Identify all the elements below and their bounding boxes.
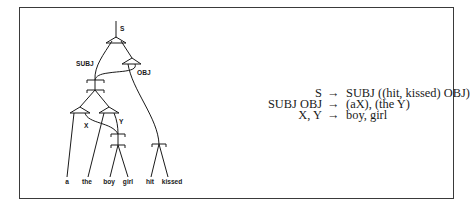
leaf-the: the <box>82 178 92 185</box>
leaf-line-hit <box>151 144 159 177</box>
rule-lhs: X, Y <box>222 109 322 121</box>
obj-to-verb-branch <box>128 64 159 144</box>
obj-branch <box>121 41 132 58</box>
leaf-kissed: kissed <box>162 178 183 185</box>
obj-crossing-curve <box>95 64 135 80</box>
label-subj: SUBJ <box>76 60 94 67</box>
obj-node-triangle <box>122 58 141 64</box>
leaf-line-the <box>88 113 104 177</box>
label-obj: OBJ <box>137 69 151 76</box>
leaf-line-girl <box>118 145 128 177</box>
x-crossing-curve <box>85 113 118 134</box>
y-node-triangle <box>99 107 119 113</box>
leaf-line-boy <box>110 145 118 177</box>
leaf-boy: boy <box>103 178 115 186</box>
leaf-hit: hit <box>146 178 155 185</box>
label-x: X <box>84 122 89 129</box>
leaf-girl: girl <box>123 178 133 186</box>
label-s: S <box>120 25 125 32</box>
y-branch <box>95 90 109 107</box>
leaf-line-kissed <box>159 144 168 177</box>
arrow-icon: → <box>327 109 339 121</box>
label-y: Y <box>119 118 124 125</box>
leaf-a: a <box>65 178 69 185</box>
rule-rhs: boy, girl <box>346 109 387 121</box>
leaf-line-a <box>67 113 74 177</box>
x-node-triangle <box>70 107 90 113</box>
